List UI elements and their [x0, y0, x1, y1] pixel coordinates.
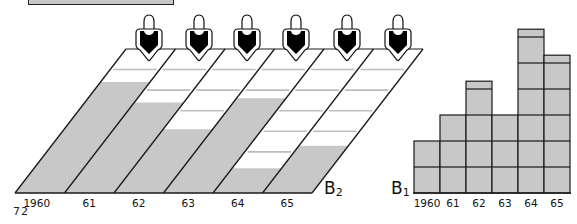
- b1-year-label: 65: [550, 197, 563, 209]
- b1-year-label: 62: [472, 197, 485, 209]
- b1-year-label: 1960: [414, 197, 441, 209]
- bar-62: [466, 81, 492, 193]
- b2-year-label: 65: [281, 197, 294, 209]
- diagram-b1-bar-chart: [413, 29, 571, 193]
- b2-year-label: 63: [182, 197, 195, 209]
- bar-64: [518, 29, 544, 193]
- b2-year-label: 62: [132, 197, 145, 209]
- bar-63: [492, 115, 518, 193]
- b2-label: B2: [324, 178, 343, 199]
- page-number: 72: [13, 205, 29, 218]
- bar-61: [440, 115, 466, 193]
- b1-year-label: 64: [524, 197, 538, 209]
- diagram-canvas: 19606162636465 B2 19606162636465 B1: [0, 0, 577, 224]
- b2-year-label: 64: [231, 197, 245, 209]
- b1-year-labels: 19606162636465: [414, 197, 564, 209]
- b2-year-labels: 19606162636465: [23, 197, 294, 209]
- b1-year-label: 63: [498, 197, 511, 209]
- b1-label: B1: [391, 178, 410, 199]
- bar-65: [544, 55, 570, 193]
- diagram-b2-parallelogram-chart: [15, 49, 423, 193]
- b2-year-label: 61: [83, 197, 96, 209]
- b1-year-label: 61: [446, 197, 459, 209]
- bar-1960: [414, 141, 440, 193]
